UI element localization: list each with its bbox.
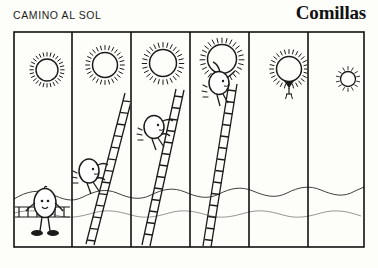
brand-logo: Comillas [296, 2, 366, 24]
strip-header: CAMINO AL SOL Comillas [0, 0, 378, 28]
comic-strip-page: CAMINO AL SOL Comillas [0, 0, 378, 268]
comic-panels-container [13, 31, 365, 248]
comic-artwork [13, 31, 365, 248]
page-title: CAMINO AL SOL [13, 8, 102, 21]
